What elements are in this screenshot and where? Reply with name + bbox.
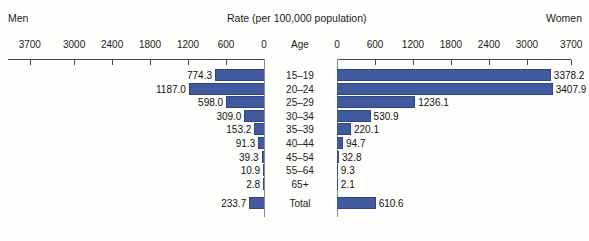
value-label-women-3: 530.9 bbox=[374, 111, 399, 122]
value-label-men-0: 774.3 bbox=[187, 70, 212, 81]
value-label-women-7: 9.3 bbox=[341, 165, 355, 176]
axis-tick-right-2400 bbox=[489, 60, 490, 65]
bar-women-1 bbox=[337, 83, 553, 95]
age-column-header: Age bbox=[291, 39, 309, 50]
axis-tick-left-2400 bbox=[112, 60, 113, 65]
axis-tick-left-600 bbox=[226, 60, 227, 65]
age-label-5: 40–44 bbox=[286, 138, 314, 149]
axis-tick-label-right-3000: 3000 bbox=[516, 39, 538, 50]
age-label-4: 35–39 bbox=[286, 124, 314, 135]
axis-tick-label-left-3000: 3000 bbox=[63, 39, 85, 50]
value-label-women-4: 220.1 bbox=[354, 124, 379, 135]
value-label-men-8: 2.8 bbox=[246, 179, 260, 190]
population-pyramid-chart: MenRate (per 100,000 population)WomenAge… bbox=[0, 0, 589, 241]
bar-women-4 bbox=[337, 123, 351, 135]
axis-tick-label-left-1200: 1200 bbox=[177, 39, 199, 50]
axis-tick-left-3000 bbox=[74, 60, 75, 65]
value-label-men-1: 1187.0 bbox=[156, 84, 186, 95]
axis-tick-label-right-3700: 3700 bbox=[560, 39, 582, 50]
age-label-1: 20–24 bbox=[286, 84, 314, 95]
age-label-0: 15–19 bbox=[286, 70, 314, 81]
bar-men-5 bbox=[258, 137, 264, 149]
bar-men-8 bbox=[263, 178, 264, 190]
bar-men-1 bbox=[189, 83, 264, 95]
value-label-men-3: 309.0 bbox=[216, 111, 241, 122]
spine-left bbox=[264, 59, 265, 217]
age-label-7: 55–64 bbox=[286, 165, 314, 176]
men-header: Men bbox=[8, 12, 28, 24]
age-label-6: 45–54 bbox=[286, 152, 314, 163]
bar-men-6 bbox=[262, 151, 264, 163]
value-label-men-7: 10.9 bbox=[241, 165, 260, 176]
axis-tick-label-right-1800: 1800 bbox=[440, 39, 462, 50]
value-label-men-5: 91.3 bbox=[236, 138, 255, 149]
bar-women-8 bbox=[337, 178, 338, 190]
axis-tick-label-right-0: 0 bbox=[334, 39, 340, 50]
value-label-women-5: 94.7 bbox=[346, 138, 365, 149]
bar-men-4 bbox=[254, 123, 264, 135]
value-label-women-2: 1236.1 bbox=[418, 97, 449, 108]
age-label-8: 65+ bbox=[292, 179, 309, 190]
value-label-women-9: 610.6 bbox=[379, 198, 404, 209]
bar-men-9 bbox=[249, 197, 264, 209]
age-label-2: 25–29 bbox=[286, 97, 314, 108]
axis-tick-left-1200 bbox=[188, 60, 189, 65]
bar-women-0 bbox=[337, 69, 551, 81]
chart-title: Rate (per 100,000 population) bbox=[227, 12, 367, 24]
value-label-men-9: 233.7 bbox=[221, 198, 246, 209]
axis-tick-left-3700 bbox=[30, 60, 31, 65]
women-header: Women bbox=[546, 12, 582, 24]
axis-tick-right-1800 bbox=[451, 60, 452, 65]
axis-tick-label-right-2400: 2400 bbox=[478, 39, 500, 50]
value-label-women-6: 32.8 bbox=[342, 152, 361, 163]
value-label-men-4: 153.2 bbox=[226, 124, 251, 135]
value-label-men-6: 39.3 bbox=[239, 152, 258, 163]
axis-tick-label-left-1800: 1800 bbox=[139, 39, 161, 50]
value-label-men-2: 598.0 bbox=[198, 97, 223, 108]
axis-tick-left-1800 bbox=[150, 60, 151, 65]
value-label-women-1: 3407.9 bbox=[556, 84, 587, 95]
age-label-3: 30–34 bbox=[286, 111, 314, 122]
bar-women-5 bbox=[337, 137, 343, 149]
axis-tick-label-left-3700: 3700 bbox=[19, 39, 41, 50]
axis-tick-label-left-2400: 2400 bbox=[101, 39, 123, 50]
axis-rule-left bbox=[8, 59, 264, 60]
bar-men-7 bbox=[263, 164, 264, 176]
axis-tick-label-right-600: 600 bbox=[367, 39, 384, 50]
axis-tick-label-right-1200: 1200 bbox=[402, 39, 424, 50]
axis-tick-label-left-0: 0 bbox=[261, 39, 267, 50]
bar-women-2 bbox=[337, 96, 415, 108]
bar-men-2 bbox=[226, 96, 264, 108]
axis-tick-right-1200 bbox=[413, 60, 414, 65]
bar-women-7 bbox=[337, 164, 338, 176]
axis-tick-right-600 bbox=[375, 60, 376, 65]
bar-men-3 bbox=[244, 110, 264, 122]
value-label-women-0: 3378.2 bbox=[554, 70, 585, 81]
bar-men-0 bbox=[215, 69, 264, 81]
axis-tick-label-left-600: 600 bbox=[218, 39, 235, 50]
axis-rule-right bbox=[337, 59, 571, 60]
axis-tick-right-3000 bbox=[527, 60, 528, 65]
axis-tick-right-3700 bbox=[571, 60, 572, 65]
value-label-women-8: 2.1 bbox=[341, 179, 355, 190]
bar-women-9 bbox=[337, 197, 376, 209]
age-label-9: Total bbox=[289, 198, 310, 209]
bar-women-3 bbox=[337, 110, 371, 122]
bar-women-6 bbox=[337, 151, 339, 163]
